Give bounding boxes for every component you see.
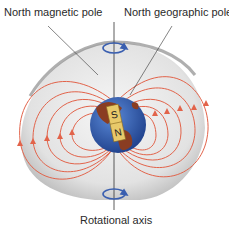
rotational-axis-label: Rotational axis: [80, 214, 152, 226]
north-magnetic-pole-label: North magnetic pole: [4, 6, 102, 18]
north-geographic-pole-label: North geographic pole: [124, 6, 229, 18]
magnetic-field-diagram: S N: [0, 0, 229, 233]
